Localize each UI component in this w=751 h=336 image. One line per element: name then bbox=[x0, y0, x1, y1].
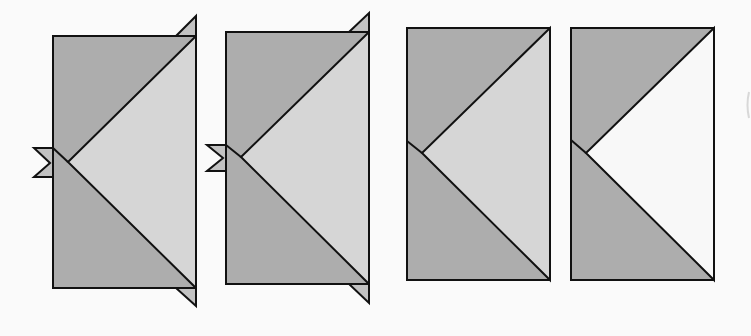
left-tab bbox=[34, 148, 53, 177]
diagram-panel-step-2 bbox=[207, 13, 369, 303]
bottom-right-tab bbox=[349, 284, 369, 303]
diagram-panel-step-4 bbox=[571, 28, 714, 280]
flying-geese-diagram bbox=[0, 0, 751, 336]
bottom-right-tab bbox=[176, 288, 196, 306]
diagram-panel-step-3 bbox=[407, 28, 550, 280]
panels-layer bbox=[34, 13, 714, 306]
top-right-tab bbox=[176, 16, 196, 36]
left-tab bbox=[207, 145, 226, 171]
edge-mark bbox=[748, 92, 750, 118]
diagram-panel-step-1 bbox=[34, 16, 196, 306]
top-right-tab bbox=[349, 13, 369, 32]
